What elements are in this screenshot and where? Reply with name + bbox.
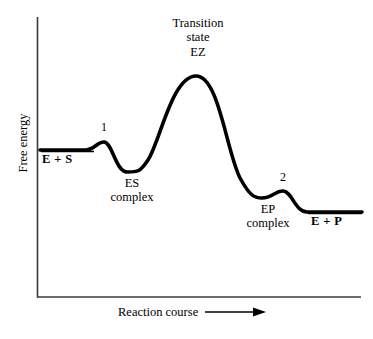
transition-state-species: EZ	[139, 45, 257, 59]
x-axis-label-group: Reaction course	[118, 305, 267, 319]
right-arrow-icon	[205, 306, 267, 318]
ep-complex-label: EP complex	[228, 202, 308, 230]
transition-state-line1: Transition	[173, 16, 224, 30]
transition-state-label: Transition state EZ	[139, 16, 257, 59]
es-complex-label: ES complex	[92, 176, 172, 204]
barrier-2-label: 2	[273, 171, 293, 184]
es-complex-line2: complex	[110, 190, 153, 204]
transition-state-line2: state	[187, 30, 210, 44]
product-state-label: E + P	[311, 214, 342, 228]
es-complex-line1: ES	[125, 176, 140, 190]
free-energy-curve	[40, 76, 362, 212]
barrier-1-label: 1	[94, 121, 114, 134]
reactant-state-label: E + S	[42, 152, 73, 166]
x-axis-label: Reaction course	[118, 305, 198, 319]
ep-complex-line1: EP	[261, 202, 276, 216]
ep-complex-line2: complex	[246, 216, 289, 230]
reaction-coordinate-figure: Transition state EZ 1 2 ES complex EP co…	[0, 0, 373, 339]
y-axis-label: Free energy	[16, 93, 30, 193]
